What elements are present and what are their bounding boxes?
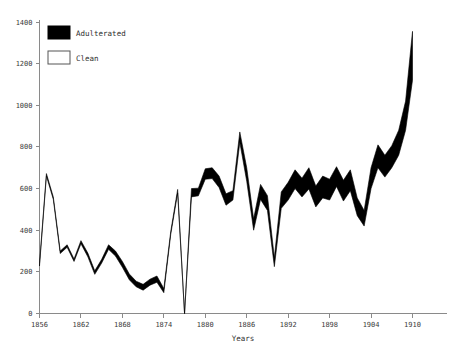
legend-label-adulterated: Adulterated — [76, 29, 126, 38]
x-tick-label: 1886 — [238, 321, 255, 329]
y-tick-label: 800 — [20, 143, 33, 151]
y-tick-label: 1200 — [16, 60, 33, 68]
x-tick-label: 1898 — [321, 321, 338, 329]
y-tick-label: 0 — [28, 310, 32, 318]
y-tick-label: 200 — [20, 268, 33, 276]
series-band-adulterated — [40, 31, 413, 313]
chart-container: 0200400600800100012001400 18561862186818… — [0, 0, 453, 356]
y-tick-label: 1400 — [16, 19, 33, 27]
y-axis-ticks: 0200400600800100012001400 — [16, 19, 40, 319]
x-axis-ticks: 1856186218681874188018861892189819041910 — [31, 314, 421, 329]
x-axis-title: Years — [232, 334, 255, 343]
y-tick-label: 600 — [20, 185, 33, 193]
area-chart: 0200400600800100012001400 18561862186818… — [0, 0, 453, 356]
x-tick-label: 1904 — [363, 321, 380, 329]
legend-swatch-adulterated — [48, 26, 70, 39]
legend-label-clean: Clean — [76, 54, 99, 63]
x-tick-label: 1910 — [404, 321, 421, 329]
x-tick-label: 1862 — [73, 321, 90, 329]
y-tick-label: 400 — [20, 227, 33, 235]
x-tick-label: 1874 — [155, 321, 172, 329]
x-tick-label: 1868 — [114, 321, 131, 329]
x-tick-label: 1880 — [197, 321, 214, 329]
x-tick-label: 1856 — [31, 321, 48, 329]
legend-swatch-clean — [48, 51, 70, 64]
y-tick-label: 1000 — [16, 102, 33, 110]
chart-legend: Adulterated Clean — [48, 26, 126, 64]
x-tick-label: 1892 — [280, 321, 297, 329]
